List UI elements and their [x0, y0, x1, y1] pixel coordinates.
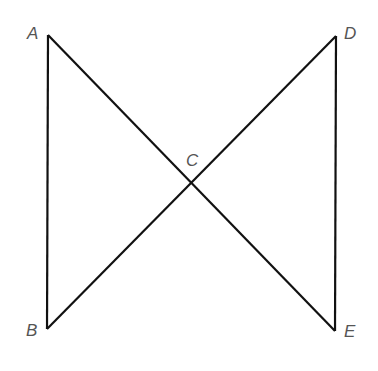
segment-ab	[47, 35, 48, 329]
segment-de	[335, 36, 336, 331]
label-e: E	[344, 322, 356, 341]
label-d: D	[344, 24, 356, 43]
label-b: B	[26, 321, 37, 340]
label-c: C	[186, 151, 199, 170]
label-a: A	[26, 24, 38, 43]
bowtie-diagram: A B C D E	[0, 0, 378, 371]
